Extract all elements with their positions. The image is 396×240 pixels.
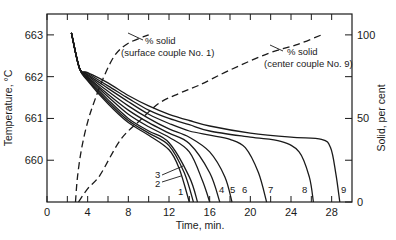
y2-ticks: 050100: [345, 29, 375, 208]
x-tick-label: 28: [326, 206, 338, 218]
x-tick-label: 24: [285, 206, 297, 218]
y-ticks: 660661662663: [25, 29, 54, 166]
annotation-center-line2: (center couple No. 9): [264, 58, 353, 69]
annotation-surface-arrow: [128, 33, 143, 40]
y2-tick-label: 100: [357, 29, 375, 41]
curve-label-3: 3: [155, 169, 160, 180]
annotation-surface-line1: % solid: [145, 35, 176, 46]
x-axis-title: Time, min.: [176, 219, 225, 231]
x-tick-label: 0: [44, 206, 50, 218]
y-tick-label: 663: [25, 29, 43, 41]
cooling-curve-5: [71, 33, 219, 202]
annotation-surface-line2: (surface couple No. 1): [121, 47, 214, 58]
curve-label-5: 5: [230, 184, 235, 195]
y-tick-label: 662: [25, 71, 43, 83]
cooling-curve-6: [71, 33, 232, 202]
x-tick-label: 20: [244, 206, 256, 218]
y-tick-label: 660: [25, 154, 43, 166]
annotation-center-line1: % solid: [287, 46, 318, 57]
curve-label-8: 8: [302, 184, 307, 195]
curve-label-9: 9: [341, 184, 346, 195]
x-tick-label: 4: [85, 206, 91, 218]
cooling-curve-1: [71, 33, 189, 202]
curve-label-7: 7: [268, 184, 273, 195]
x-tick-label: 8: [125, 206, 131, 218]
y2-axis-title: Solid, per cent: [375, 84, 387, 151]
cooling-curve-7: [71, 33, 266, 202]
leader-2: [162, 176, 181, 182]
x-tick-label: 12: [163, 206, 175, 218]
y-tick-label: 661: [25, 112, 43, 124]
curve-label-4: 4: [219, 184, 224, 195]
curve-label-1: 1: [178, 186, 183, 197]
y2-tick-label: 50: [357, 112, 369, 124]
solid-surface-curve: [76, 35, 149, 202]
x-tick-label: 16: [204, 206, 216, 218]
y-axis-title: Temperature, °C: [2, 69, 14, 146]
curve-label-6: 6: [242, 184, 247, 195]
cooling-curve-chart: 0481216202428 660661662663 050100 Time, …: [0, 0, 396, 240]
y2-tick-label: 0: [357, 196, 363, 208]
